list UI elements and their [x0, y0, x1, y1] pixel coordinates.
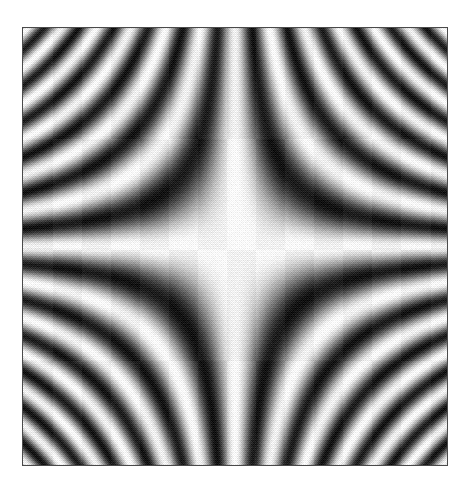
figure-root — [0, 0, 470, 491]
density-plot-frame — [22, 27, 448, 466]
density-plot-canvas — [23, 28, 447, 465]
